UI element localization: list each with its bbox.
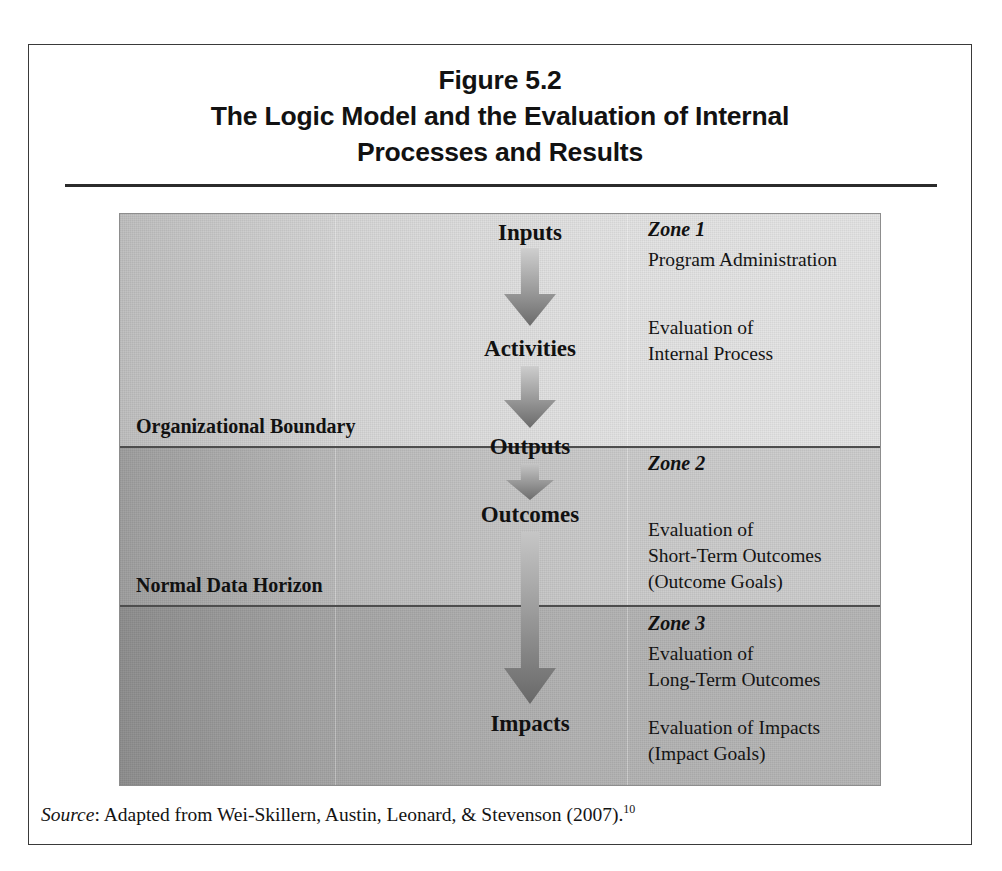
source-note: Source: Adapted from Wei-Skillern, Austi…: [41, 802, 635, 826]
zone-2-secondary-line-1: Evaluation of: [648, 517, 876, 543]
figure-title-line-3: Processes and Results: [29, 134, 971, 170]
down-arrow-icon-inputs-to-activities: [502, 248, 558, 326]
zone-1-line-1: Program Administration: [648, 247, 876, 273]
figure-frame: Figure 5.2 The Logic Model and the Evalu…: [28, 44, 972, 845]
down-arrow-icon-outputs-to-outcomes: [504, 464, 556, 500]
zone-3-line-2: Long-Term Outcomes: [648, 667, 876, 693]
normal-data-horizon-label: Normal Data Horizon: [136, 574, 323, 597]
zone-3-heading: Zone 3: [648, 612, 876, 635]
zone-1-block: Zone 1 Program Administration Evaluation…: [648, 218, 876, 367]
zone-annotation-column: Zone 1 Program Administration Evaluation…: [648, 214, 876, 785]
panel-seam-left: [335, 214, 336, 785]
figure-title-line-1: Figure 5.2: [29, 62, 971, 98]
organizational-boundary-label: Organizational Boundary: [136, 415, 355, 438]
flow-label-outputs: Outputs: [430, 434, 630, 460]
flow-label-impacts: Impacts: [430, 711, 630, 737]
zone-2-secondary-line-2: Short-Term Outcomes: [648, 543, 876, 569]
zone-1-heading: Zone 1: [648, 218, 876, 241]
flow-label-inputs: Inputs: [430, 220, 630, 246]
down-arrow-icon-activities-to-outputs: [502, 366, 558, 428]
zone-2-heading: Zone 2: [648, 452, 876, 475]
zone-1-secondary-line-1: Evaluation of: [648, 315, 876, 341]
logic-model-diagram-panel: Organizational Boundary Normal Data Hori…: [119, 213, 881, 786]
source-text: Adapted from Wei-Skillern, Austin, Leona…: [100, 804, 623, 825]
figure-title: Figure 5.2 The Logic Model and the Evalu…: [29, 62, 971, 170]
figure-title-line-2: The Logic Model and the Evaluation of In…: [29, 98, 971, 134]
logic-flow-column: Inputs Activities: [430, 214, 630, 785]
flow-label-activities: Activities: [430, 336, 630, 362]
source-footnote-marker: 10: [623, 802, 635, 816]
zone-3-line-1: Evaluation of: [648, 641, 876, 667]
source-label: Source: [41, 804, 94, 825]
zone-3-block: Zone 3 Evaluation of Long-Term Outcomes …: [648, 612, 876, 767]
zone-3-secondary-line-1: Evaluation of Impacts: [648, 715, 876, 741]
zone-3-secondary-line-2: (Impact Goals): [648, 741, 876, 767]
zone-2-secondary-line-3: (Outcome Goals): [648, 569, 876, 595]
zone-2-block: Zone 2 Evaluation of Short-Term Outcomes…: [648, 452, 876, 595]
zone-1-secondary-line-2: Internal Process: [648, 341, 876, 367]
down-arrow-icon-outcomes-to-impacts: [502, 532, 558, 704]
title-divider-rule: [65, 184, 937, 187]
flow-label-outcomes: Outcomes: [430, 502, 630, 528]
